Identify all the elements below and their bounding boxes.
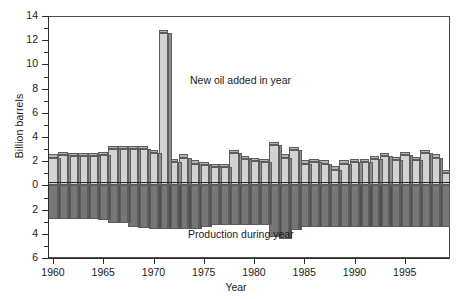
y-tick: [42, 258, 48, 259]
bar-side-face: [78, 185, 81, 219]
bar-side-face: [158, 153, 161, 186]
bar-side-face: [199, 185, 202, 229]
y-tick: [42, 89, 48, 90]
oil-discovery-production-chart: 14121086420246 1960196519701975198019851…: [0, 0, 472, 299]
x-tick-label: 1970: [134, 266, 174, 278]
bar-side-face: [299, 150, 302, 185]
y-tick-minor: [44, 52, 48, 53]
bar-side-face: [299, 185, 302, 230]
bar-side-face: [239, 185, 242, 225]
bar-side-face: [379, 185, 382, 226]
x-axis-title: Year: [0, 281, 472, 293]
bar-side-face: [128, 185, 131, 223]
x-tick-label: 1985: [284, 266, 324, 278]
bar-side-face: [209, 185, 212, 226]
bar-side-face: [410, 185, 413, 226]
x-tick-label: 1975: [184, 266, 224, 278]
bar-side-face: [168, 33, 171, 185]
x-axis-line: [48, 258, 450, 259]
bar-side-face: [400, 185, 403, 226]
bar-side-face: [138, 149, 141, 185]
bar-side-face: [349, 185, 352, 226]
bar-side-face: [219, 185, 222, 225]
bar-side-face: [68, 185, 71, 219]
y-tick-label: 2: [14, 204, 38, 215]
bar-side-face: [239, 153, 242, 186]
y-tick-minor: [44, 28, 48, 29]
y-tick-minor: [44, 149, 48, 150]
bar-side-face: [309, 185, 312, 226]
bar-side-face: [108, 155, 111, 185]
y-tick-minor: [44, 101, 48, 102]
bar-side-face: [420, 185, 423, 226]
bar-side-face: [68, 155, 71, 185]
y-tick-label: 0: [14, 179, 38, 190]
bar-side-face: [389, 185, 392, 226]
y-tick: [42, 64, 48, 65]
bar-side-face: [108, 185, 111, 220]
bar-side-face: [410, 155, 413, 185]
bar-front-face: [48, 185, 58, 219]
y-tick-label: 12: [14, 34, 38, 45]
bar-side-face: [88, 185, 91, 219]
y-tick: [42, 161, 48, 162]
x-tick: [53, 258, 54, 264]
bar-side-face: [249, 185, 252, 225]
y-tick: [42, 137, 48, 138]
x-tick: [355, 258, 356, 264]
x-tick: [204, 258, 205, 264]
y-tick-minor: [44, 198, 48, 199]
bar-side-face: [168, 185, 171, 229]
bar-side-face: [158, 185, 161, 229]
bar-side-face: [339, 185, 342, 226]
bar-side-face: [188, 185, 191, 229]
x-tick: [103, 258, 104, 264]
x-tick: [254, 258, 255, 264]
y-tick-minor: [44, 246, 48, 247]
bar-side-face: [178, 185, 181, 229]
x-tick: [304, 258, 305, 264]
x-tick-label: 1965: [83, 266, 123, 278]
y-tick-label: 10: [14, 58, 38, 69]
bar-side-face: [269, 185, 272, 225]
bar-side-face: [430, 153, 433, 186]
y-tick-minor: [44, 222, 48, 223]
x-tick: [154, 258, 155, 264]
zero-baseline: [48, 182, 450, 183]
bar-series-layer: [48, 16, 450, 258]
annotation-production: Production during year: [188, 228, 294, 240]
bar-side-face: [359, 185, 362, 226]
bar-side-face: [369, 185, 372, 226]
bar-side-face: [229, 185, 232, 225]
y-tick: [42, 234, 48, 235]
bar-side-face: [138, 185, 141, 226]
bar-side-face: [98, 185, 101, 219]
bar-side-face: [430, 185, 433, 226]
y-tick-minor: [44, 77, 48, 78]
y-tick: [42, 210, 48, 211]
y-tick-label: 4: [14, 228, 38, 239]
annotation-new-oil: New oil added in year: [190, 74, 291, 86]
bar-side-face: [128, 149, 131, 185]
y-tick: [42, 113, 48, 114]
y-tick: [42, 16, 48, 17]
y-tick-label: 6: [14, 252, 38, 263]
bar-side-face: [319, 185, 322, 226]
x-tick: [405, 258, 406, 264]
y-tick: [42, 40, 48, 41]
y-tick: [42, 185, 48, 186]
bar-side-face: [118, 185, 121, 223]
x-tick-label: 1995: [385, 266, 425, 278]
x-tick-label: 1960: [33, 266, 73, 278]
x-tick-label: 1990: [335, 266, 375, 278]
y-axis-title: Billion barrels: [13, 71, 25, 181]
x-tick-label: 1980: [234, 266, 274, 278]
bar-side-face: [148, 149, 151, 185]
bar-side-face: [329, 185, 332, 226]
y-tick-minor: [44, 125, 48, 126]
bar-side-face: [339, 170, 342, 186]
bar-side-face: [58, 185, 61, 219]
bar-side-face: [259, 185, 262, 225]
production-bar: [48, 185, 58, 219]
y-tick-minor: [44, 173, 48, 174]
